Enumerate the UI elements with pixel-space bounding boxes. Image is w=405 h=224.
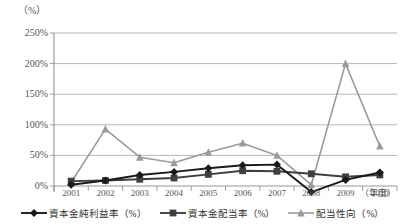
data-point-marker: [308, 170, 315, 177]
legend-item-1: 資本金純利益率（%）: [21, 206, 147, 220]
y-axis-tick-label: 150%: [8, 89, 48, 99]
legend-marker-diamond-icon: [21, 207, 47, 219]
data-point-marker: [342, 59, 350, 67]
data-point-marker: [102, 125, 110, 133]
legend-item-3: 配当性向（%）: [288, 206, 384, 220]
data-point-marker: [239, 139, 247, 147]
data-point-marker: [274, 168, 281, 175]
legend-marker-triangle-icon: [288, 207, 314, 219]
legend-label: 資本金配当率（%）: [188, 206, 276, 220]
series-2: [68, 167, 384, 184]
chart-legend: 資本金純利益率（%）資本金配当率（%）配当性向（%）: [0, 204, 405, 222]
y-axis-tick-label: 50%: [8, 150, 48, 160]
legend-label: 配当性向（%）: [316, 206, 384, 220]
legend-label: 資本金純利益率（%）: [49, 206, 147, 220]
data-point-marker: [376, 142, 384, 150]
legend-marker-square-icon: [160, 207, 186, 219]
chart-container: （%） 0%50%100%150%200%250% 20012002200320…: [0, 0, 405, 224]
legend-item-2: 資本金配当率（%）: [160, 206, 276, 220]
series-line: [71, 171, 380, 181]
y-axis-tick-label: 0%: [8, 181, 48, 191]
y-axis-tick-label: 250%: [8, 28, 48, 38]
series-3: [67, 59, 383, 188]
y-axis-tick-label: 200%: [8, 59, 48, 69]
y-axis-tick-label: 100%: [8, 120, 48, 130]
x-axis-unit-label: （年度）: [360, 188, 396, 198]
